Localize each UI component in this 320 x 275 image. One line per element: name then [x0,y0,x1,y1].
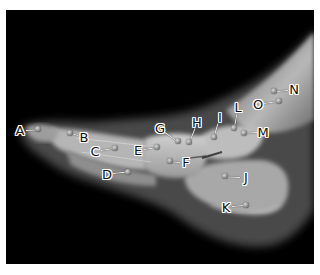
marker-label-n: N [289,83,299,96]
marker-label-h: H [192,116,202,129]
marker-leader-line [173,161,180,162]
marker-dot-o [276,98,282,104]
marker-label-g: G [155,122,165,135]
marker-leader-line [26,129,35,130]
marker-dot-g [175,138,181,144]
marker-dot-f [167,158,173,164]
marker-label-o: O [253,98,263,111]
marker-dot-c [112,145,118,151]
marker-label-e: E [134,144,142,157]
marker-label-i: I [218,111,222,124]
marker-label-l: L [234,101,241,114]
marker-label-f: F [182,156,189,169]
marker-label-c: C [90,145,99,158]
marker-dot-j [222,173,228,179]
marker-label-a: A [16,124,25,137]
marker-dot-e [154,144,160,150]
marker-label-m: M [257,126,268,139]
marker-dot-i [211,134,217,140]
marker-label-j: J [244,171,248,184]
marker-dot-a [35,126,41,132]
marker-dot-n [271,88,277,94]
marker-leader-line [228,176,240,178]
marker-dot-d [125,169,131,175]
marker-label-k: K [222,201,231,214]
xray-image-frame: ABCDEFGHIJKLMNO [6,10,314,264]
marker-dot-h [186,139,192,145]
marker-dot-m [241,130,247,136]
marker-dot-b [67,130,73,136]
marker-label-d: D [102,168,112,181]
marker-label-b: B [80,131,89,144]
marker-dot-l [231,125,237,131]
marker-dot-k [243,202,249,208]
